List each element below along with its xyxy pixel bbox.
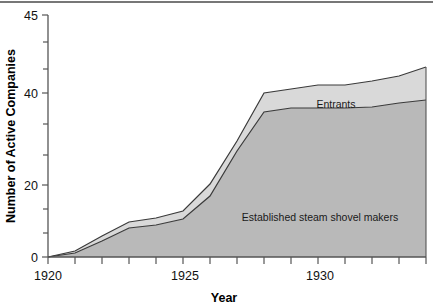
chart-container: 45 40 20 0 1920 1925 1930 Number of Acti… [0,0,433,307]
y-tick-label-45: 45 [24,9,38,23]
x-tick-label-1920: 1920 [34,269,62,283]
x-tick-marks [48,257,426,264]
x-tick-label-1930: 1930 [306,269,334,283]
x-axis-title: Year [211,291,238,305]
y-tick-label-20: 20 [24,179,38,193]
y-axis-title: Number of Active Companies [4,49,18,223]
established-makers-area [48,100,426,257]
series-label-established: Established steam shovel makers [242,211,398,223]
series-label-entrants: Entrants [316,98,355,110]
y-tick-label-0: 0 [31,251,38,265]
x-tick-label-1925: 1925 [171,269,199,283]
y-tick-label-40: 40 [24,87,38,101]
y-tick-marks [42,15,48,257]
area-chart-svg: 45 40 20 0 1920 1925 1930 Number of Acti… [0,0,433,307]
